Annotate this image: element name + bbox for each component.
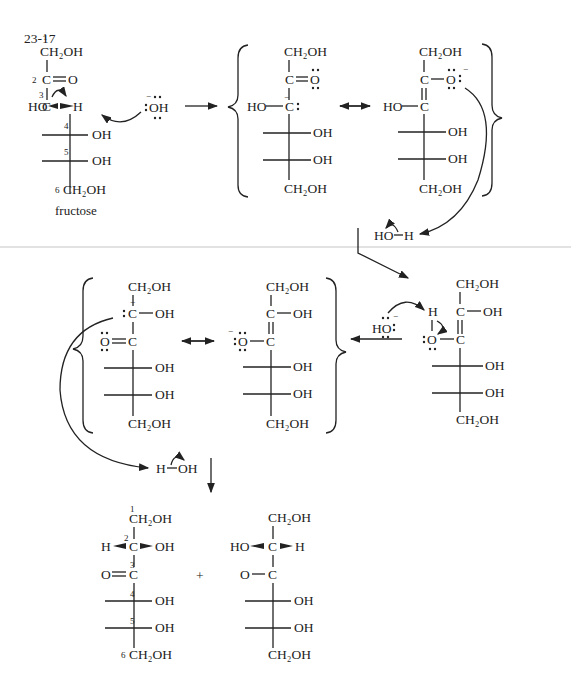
left-brace-row2 <box>73 278 93 433</box>
carbon-number-2: 2 <box>124 533 129 543</box>
c2-hydroxyl: OH <box>293 306 313 321</box>
c4-hydroxyl: OH <box>293 359 313 374</box>
c5-hydroxyl: OH <box>485 385 505 400</box>
c5-hydroxyl: OH <box>313 152 333 167</box>
c3-left-hydroxyl: HO <box>383 99 403 114</box>
c6-group: CH₂OH <box>419 181 462 196</box>
water-hydrogen: H <box>156 461 166 476</box>
c3-carbon: C <box>128 334 137 349</box>
carbanion-carbon: C <box>285 99 294 114</box>
c3-left-hydroxyl: HO <box>247 99 267 114</box>
carbonyl-oxygen: O <box>101 567 111 582</box>
c3-carbon: C <box>456 332 465 347</box>
carbonyl-oxygen: O <box>310 72 320 87</box>
c5-hydroxyl: OH <box>155 387 175 402</box>
c2-carbon: C <box>456 304 465 319</box>
carbon-number-6: 6 <box>121 650 126 660</box>
c2-oxygen: O <box>68 72 78 87</box>
c6-group: CH₂OH <box>129 647 172 662</box>
c3-hydrogen: H <box>73 99 83 114</box>
enolate-b-structure: CH₂OH C O − HO C OH OH CH₂OH <box>383 44 468 196</box>
carbon-number-6: 6 <box>55 185 60 195</box>
c5-hydroxyl: OH <box>92 153 112 168</box>
c4-hydroxyl: OH <box>313 125 333 140</box>
c1-group: CH₂OH <box>268 510 311 525</box>
c1-group: CH₂OH <box>129 511 172 526</box>
c1-group: CH₂OH <box>40 44 83 59</box>
oxygen-charge: − <box>463 64 468 74</box>
enol-hydrogen: H <box>428 304 438 319</box>
c4-hydroxyl: OH <box>485 358 505 373</box>
c3-carbon: C <box>129 567 138 582</box>
c4-hydroxyl: OH <box>448 124 468 139</box>
c5-hydroxyl: OH <box>448 151 468 166</box>
c3-carbon: C <box>266 334 275 349</box>
c2-carbon: C <box>129 539 138 554</box>
c1-group: CH₂OH <box>419 44 462 59</box>
c5-hydroxyl: OH <box>294 620 314 635</box>
c6-group: CH₂OH <box>266 416 309 431</box>
enol-oxygen: O <box>427 332 437 347</box>
hydroxide-base: − OH <box>102 91 169 122</box>
c1-group: CH₂OH <box>456 276 499 291</box>
fructose-structure: 1 CH₂OH 2 C O 3 HO C H 4 OH 5 OH 6 CH₂OH… <box>28 32 112 218</box>
c4-hydroxyl: OH <box>92 127 112 142</box>
c3-carbon: C <box>420 99 429 114</box>
hydroxide-2: HO − <box>372 302 424 338</box>
c1-group: CH₂OH <box>128 279 171 294</box>
fructose-label: fructose <box>55 203 97 218</box>
carbon-number-4: 4 <box>130 589 135 599</box>
c6-group: CH₂OH <box>268 647 311 662</box>
enolate-a-structure: CH₂OH C O HO − C OH OH CH₂OH <box>247 44 333 196</box>
enolate-oxygen: O <box>446 72 456 87</box>
negative-charge: − <box>393 311 398 321</box>
carbon-number-5: 5 <box>130 616 135 626</box>
c2-carbon: C <box>266 306 275 321</box>
c2-hydrogen: H <box>295 539 305 554</box>
c2-hydroxyl: OH <box>483 304 503 319</box>
c1-group: CH₂OH <box>266 279 309 294</box>
c2-carbon: C <box>420 72 429 87</box>
plus-sign: + <box>196 568 204 583</box>
c2-carbon: C <box>285 72 294 87</box>
oxygen-charge: − <box>228 326 233 336</box>
water-molecule-2: H OH <box>156 457 198 476</box>
enolate-c-structure: CH₂OH − C OH O C OH OH CH₂OH <box>100 279 175 431</box>
c3-carbon: C <box>268 567 277 582</box>
carbon-number-4: 4 <box>64 121 69 131</box>
curved-arrow-deprotonation <box>102 112 141 122</box>
enolate-d-structure: CH₂OH C OH O − C OH OH CH₂OH <box>228 279 313 431</box>
c5-hydroxyl: OH <box>155 620 175 635</box>
enediol-structure: CH₂OH C OH C O H OH OH CH₂OH <box>423 276 505 427</box>
c6-group: CH₂OH <box>63 182 106 197</box>
carbonyl-oxygen: O <box>240 567 250 582</box>
c2-hydroxyl: OH <box>155 306 175 321</box>
water-molecule-1: HO H <box>374 225 414 243</box>
enolate-oxygen: O <box>238 334 248 349</box>
product-1-structure: 1 CH₂OH 2 H C OH 3 O C 4 OH 5 OH 6 CH₂OH <box>101 504 175 662</box>
c4-hydroxyl: OH <box>294 593 314 608</box>
carbon-number-1: 1 <box>43 32 48 42</box>
c4-hydroxyl: OH <box>155 360 175 375</box>
c2-carbon: C <box>268 539 277 554</box>
carbon-number-5: 5 <box>64 147 69 157</box>
c6-group: CH₂OH <box>456 412 499 427</box>
c2-carbon: C <box>42 72 51 87</box>
water-hydrogen: H <box>404 228 414 243</box>
c3-carbon: C <box>42 99 51 114</box>
water-hydroxyl: HO <box>374 228 394 243</box>
c6-group: CH₂OH <box>128 416 171 431</box>
c2-hydroxyl: OH <box>155 539 175 554</box>
carbanion-carbon: C <box>128 306 137 321</box>
left-brace-row1 <box>228 45 248 197</box>
c5-hydroxyl: OH <box>293 386 313 401</box>
hydroxide-label: OH <box>149 100 169 115</box>
c2-hydroxyl: HO <box>230 539 250 554</box>
c6-group: CH₂OH <box>284 181 327 196</box>
carbon-number-2: 2 <box>32 75 37 85</box>
water-hydroxyl: OH <box>178 461 198 476</box>
c2-hydrogen: H <box>101 539 111 554</box>
right-brace-row2 <box>326 278 346 433</box>
mechanism-diagram: 23-17 1 CH₂OH 2 C O 3 HO C H 4 OH 5 OH 6… <box>0 0 571 693</box>
hydroxide-label: HO <box>372 321 392 336</box>
